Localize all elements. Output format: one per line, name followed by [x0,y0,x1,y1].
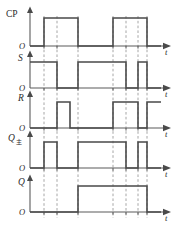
signal-name-R: R [17,93,24,103]
signal-subscript-Q_master: 主 [16,138,22,145]
value-axis-arrow-CP [27,7,33,14]
value-axis-arrow-S [27,51,33,58]
time-label-R: t [165,129,168,139]
origin-label-R: O [19,123,25,133]
waveform-row-S: SOt [18,51,171,100]
time-label-CP: t [165,47,168,57]
waveform-trace-Q_master [30,142,161,168]
waveform-trace-R [30,102,161,128]
time-label-Q_master: t [165,169,168,179]
signal-name-Q: Q [18,177,25,187]
signal-name-CP: CP [6,9,18,19]
waveform-row-R: ROt [17,91,171,140]
value-axis-arrow-Q_master [27,131,33,138]
timing-diagram-figure: CPOtSOtROtQ主OtQOt CP S R Q 主 Q O t [0,0,182,236]
time-label-Q: t [165,213,168,223]
time-label-S: t [165,89,168,99]
origin-label-CP: O [19,41,25,51]
waveform-rows-group: CPOtSOtROtQ主OtQOt [6,7,171,224]
waveform-trace-CP [30,18,161,46]
waveform-trace-Q [30,186,161,212]
timing-diagram-canvas: CPOtSOtROtQ主OtQOt [0,0,182,236]
waveform-row-CP: CPOt [6,7,171,58]
value-axis-arrow-Q [27,175,33,182]
origin-label-Q_master: O [19,163,25,173]
signal-name-S: S [18,53,23,63]
signal-name-Q_master: Q [8,133,15,143]
origin-label-S: O [19,83,25,93]
waveform-trace-S [30,62,161,88]
waveform-row-Q_master: Q主Ot [8,131,171,180]
origin-label-Q: O [19,207,25,217]
value-axis-arrow-R [27,91,33,98]
waveform-row-Q: QOt [18,175,171,224]
